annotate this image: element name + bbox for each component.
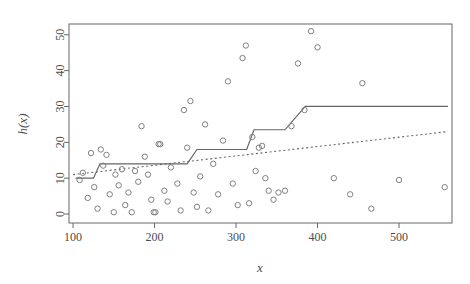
- data-point: [331, 175, 336, 180]
- data-point: [276, 190, 281, 195]
- data-point: [442, 184, 447, 189]
- y-axis-ticks: 01020304050: [53, 29, 69, 217]
- data-point: [230, 181, 235, 186]
- data-point: [184, 145, 189, 150]
- x-axis-ticks: 100200300400500: [64, 223, 408, 244]
- data-point: [136, 179, 141, 184]
- data-point: [266, 188, 271, 193]
- data-point: [396, 177, 401, 182]
- y-tick-label: 10: [53, 172, 67, 184]
- data-point: [240, 55, 245, 60]
- fit-line-segment: [73, 132, 448, 175]
- data-point: [113, 172, 118, 177]
- data-point: [139, 123, 144, 128]
- y-axis-label: h(x): [15, 114, 30, 135]
- y-tick-label: 0: [53, 211, 67, 217]
- data-point: [295, 61, 300, 66]
- data-point: [123, 202, 128, 207]
- data-point: [308, 28, 313, 33]
- x-tick-label: 400: [309, 230, 327, 244]
- x-tick-label: 100: [64, 230, 82, 244]
- data-point: [88, 150, 93, 155]
- plot-box-border: [69, 24, 452, 223]
- data-point: [225, 79, 230, 84]
- x-axis-label: x: [256, 260, 263, 275]
- data-point: [360, 80, 365, 85]
- data-point: [315, 45, 320, 50]
- data-point: [194, 204, 199, 209]
- data-points-group: [77, 28, 447, 214]
- data-point: [168, 165, 173, 170]
- data-point: [98, 147, 103, 152]
- y-tick-label: 20: [53, 136, 67, 148]
- data-point: [191, 190, 196, 195]
- step-path: [76, 106, 448, 178]
- data-point: [165, 199, 170, 204]
- data-point: [253, 168, 258, 173]
- data-point: [149, 197, 154, 202]
- data-point: [289, 123, 294, 128]
- data-point: [178, 208, 183, 213]
- y-tick-label: 30: [53, 100, 67, 112]
- data-point: [202, 122, 207, 127]
- data-point: [246, 201, 251, 206]
- data-point: [162, 188, 167, 193]
- data-point: [116, 183, 121, 188]
- data-point: [347, 192, 352, 197]
- y-tick-label: 50: [53, 29, 67, 41]
- data-point: [198, 174, 203, 179]
- data-point: [145, 172, 150, 177]
- data-point: [181, 107, 186, 112]
- data-point: [85, 195, 90, 200]
- data-point: [175, 181, 180, 186]
- data-point: [211, 161, 216, 166]
- data-point: [129, 210, 134, 215]
- data-point: [142, 154, 147, 159]
- data-point: [243, 43, 248, 48]
- step-function-line: [76, 106, 448, 178]
- y-tick-label: 40: [53, 65, 67, 77]
- data-point: [282, 188, 287, 193]
- scatter-plot-figure: 01020304050 100200300400500 h(x) x: [0, 0, 470, 284]
- plot-canvas: 01020304050 100200300400500 h(x) x: [0, 0, 470, 284]
- data-point: [215, 192, 220, 197]
- plot-frame: [69, 24, 452, 223]
- data-point: [80, 170, 85, 175]
- x-tick-label: 500: [390, 230, 408, 244]
- data-point: [126, 190, 131, 195]
- data-point: [111, 210, 116, 215]
- data-point: [263, 175, 268, 180]
- data-point: [220, 138, 225, 143]
- data-point: [92, 184, 97, 189]
- x-tick-label: 200: [146, 230, 164, 244]
- data-point: [132, 168, 137, 173]
- data-point: [271, 197, 276, 202]
- data-point: [95, 206, 100, 211]
- data-point: [104, 152, 109, 157]
- data-point: [188, 98, 193, 103]
- data-point: [369, 206, 374, 211]
- data-point: [107, 192, 112, 197]
- data-point: [235, 202, 240, 207]
- data-point: [206, 208, 211, 213]
- x-tick-label: 300: [227, 230, 245, 244]
- linear-fit-line: [73, 132, 448, 175]
